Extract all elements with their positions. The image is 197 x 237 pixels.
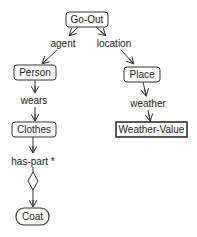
concept-diagram: Go-Out Person Place Clothes Weather-Valu… [0,0,197,237]
relation-wears-label: wears [20,95,48,106]
relation-agent-label: agent [50,38,75,49]
node-go-out-label: Go-Out [71,14,104,25]
node-weather-value-label: Weather-Value [119,124,185,135]
node-place[interactable]: Place [124,67,160,82]
node-clothes[interactable]: Clothes [12,122,56,137]
node-place-label: Place [129,69,154,80]
node-coat-label: Coat [22,211,43,222]
edge-go-out-agent [70,27,78,35]
edge-location-place [121,50,133,63]
node-person-label: Person [19,67,51,78]
relation-weather-label: weather [129,98,166,109]
edge-place-weather [143,82,146,95]
node-weather-value[interactable]: Weather-Value [116,122,187,137]
node-person[interactable]: Person [14,65,56,80]
edge-agent-person [43,50,57,63]
relation-has-part-label: has-part * [11,156,54,167]
diamond-marker-icon [28,172,38,190]
relation-location-label: location [97,38,131,49]
node-clothes-label: Clothes [17,124,51,135]
node-coat[interactable]: Coat [16,208,49,225]
edge-has-part-coat [28,167,38,206]
edge-weather-weather-value [148,110,150,120]
edge-go-out-location [96,27,105,35]
node-go-out[interactable]: Go-Out [66,12,108,27]
